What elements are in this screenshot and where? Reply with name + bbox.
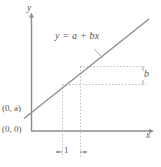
regression-line-figure: y x y = a + bx b (0, a) (0, 0) 1 bbox=[0, 0, 161, 167]
slope-label: b bbox=[144, 69, 149, 79]
figure-canvas bbox=[0, 0, 161, 167]
equation-label: y = a + bx bbox=[55, 31, 99, 41]
x-axis-label: x bbox=[146, 131, 150, 141]
origin-point-label: (0, 0) bbox=[2, 125, 22, 134]
run-marker-right-arrow-icon bbox=[84, 151, 88, 154]
run-marker-bracket bbox=[56, 151, 88, 154]
intercept-point-label: (0, a) bbox=[2, 104, 21, 113]
run-marker-left-arrow-icon bbox=[56, 151, 60, 154]
y-axis-label: y bbox=[27, 4, 31, 14]
run-marker-label: 1 bbox=[64, 146, 69, 155]
reference-lines bbox=[63, 67, 147, 159]
equation-leader-line bbox=[94, 49, 103, 58]
x-axis bbox=[32, 129, 155, 134]
